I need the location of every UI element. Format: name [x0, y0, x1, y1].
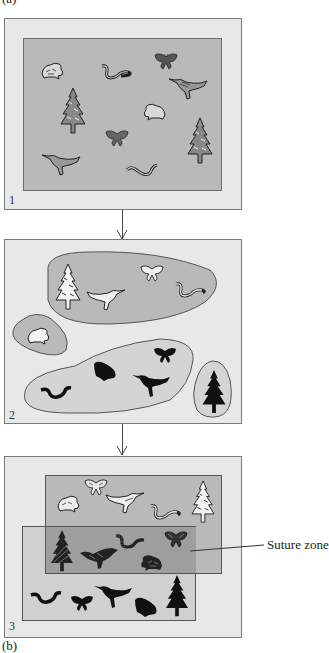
- figure-label-b: (b): [2, 638, 17, 653]
- suture-zone-label: Suture zone: [267, 537, 329, 553]
